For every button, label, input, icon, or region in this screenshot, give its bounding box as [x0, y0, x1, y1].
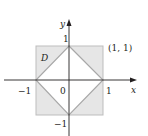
tick-y-pos: 1: [63, 34, 69, 44]
y-axis-arrow-icon: [67, 19, 72, 26]
tick-x-neg: −1: [18, 86, 31, 96]
region-label: D: [40, 53, 48, 63]
tick-origin: 0: [60, 86, 66, 96]
tick-y-neg: −1: [54, 119, 67, 129]
x-axis-label: x: [131, 85, 136, 95]
y-axis-label: y: [59, 19, 66, 29]
tick-x-pos: 1: [106, 86, 112, 96]
point-label: (1, 1): [108, 43, 132, 53]
region-diagram: y x 1 −1 −1 1 0 D (1, 1): [0, 0, 148, 136]
x-axis-arrow-icon: [130, 78, 137, 83]
